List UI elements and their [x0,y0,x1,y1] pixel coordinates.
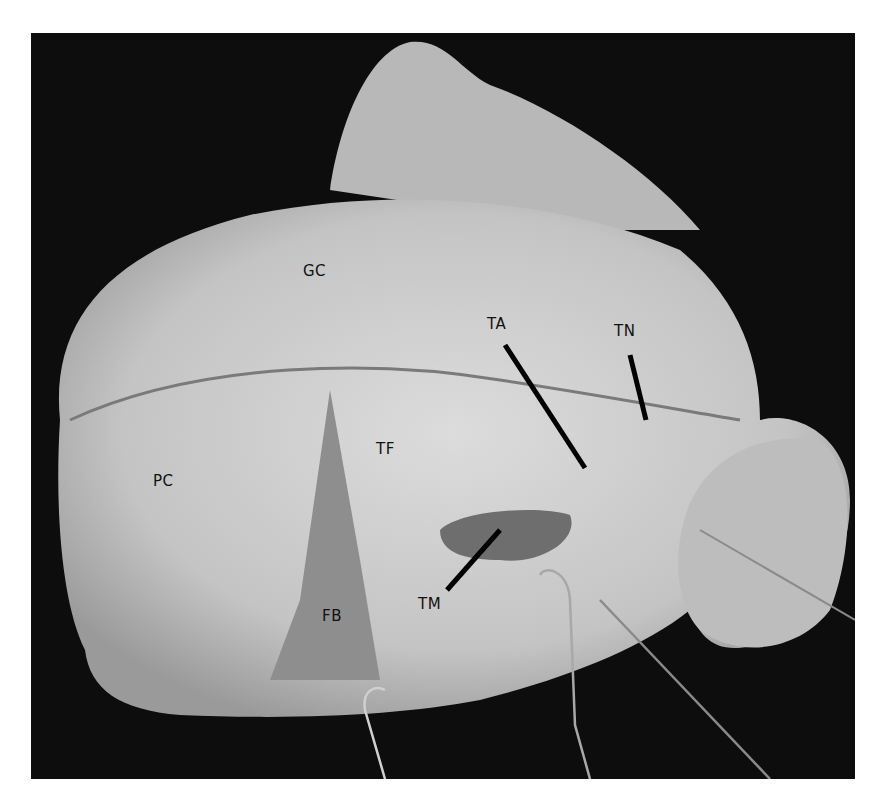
label-ta: TA [487,315,506,333]
label-gc: GC [303,262,326,280]
specimen-illustration [31,33,855,779]
label-tf: TF [376,440,395,458]
label-tm: TM [418,595,441,613]
dissection-photo [31,33,855,779]
label-fb: FB [322,607,342,625]
label-tn: TN [614,322,635,340]
label-pc: PC [153,472,174,490]
